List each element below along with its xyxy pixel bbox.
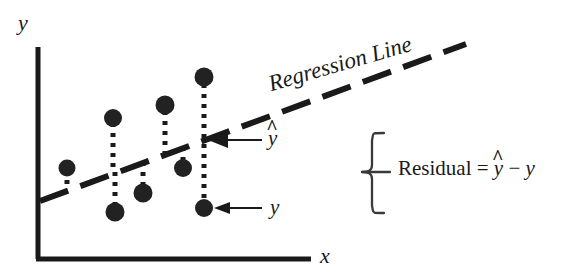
- y-arrow-head: [214, 202, 230, 214]
- data-point: [104, 109, 122, 127]
- diagram-canvas: [0, 0, 576, 278]
- x-axis-label: x: [320, 245, 330, 267]
- residual-prefix-text: Residual =: [398, 156, 489, 180]
- data-point: [134, 184, 153, 203]
- y-callout-arrow: [214, 202, 262, 214]
- residual-hat-accent-icon: ^: [492, 148, 504, 168]
- y-axis-label: y: [18, 12, 28, 34]
- data-point: [174, 159, 192, 177]
- data-points: [59, 68, 214, 222]
- data-point: [195, 199, 213, 217]
- residual-y-hat-glyph: ^y: [494, 158, 503, 179]
- regression-residual-diagram: y x Regression Line ^y y Residual = ^y −…: [0, 0, 576, 278]
- observed-value-label: y: [270, 197, 279, 218]
- residual-y-term: y: [526, 156, 535, 180]
- residual-equation-label: Residual = ^y − y: [398, 158, 535, 179]
- hat-accent-icon: ^: [266, 118, 278, 138]
- predicted-value-label: ^y: [268, 128, 277, 149]
- residual-minus-sign: −: [508, 156, 520, 180]
- data-point: [156, 96, 175, 115]
- y-hat-glyph: ^y: [268, 128, 277, 149]
- data-point: [59, 160, 76, 177]
- data-point: [106, 203, 125, 222]
- data-point: [195, 68, 214, 87]
